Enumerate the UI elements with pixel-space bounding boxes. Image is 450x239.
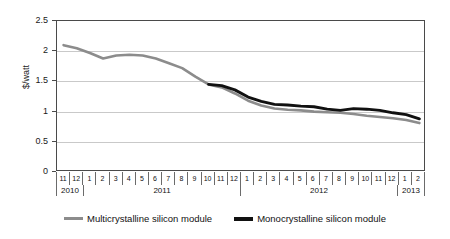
x-tick-month: 8: [175, 172, 188, 185]
legend-swatch: [234, 217, 253, 221]
x-tick-month: 4: [280, 172, 293, 185]
x-tick-month: 11: [215, 172, 228, 185]
x-tick-month: 2: [254, 172, 267, 185]
x-tick-year: 2011: [84, 185, 241, 196]
x-tick-month: 6: [149, 172, 162, 185]
x-tick-month: 3: [110, 172, 123, 185]
series-lines: [57, 21, 426, 172]
x-tick-month: 6: [307, 172, 320, 185]
y-tick-label: 1.5: [26, 76, 48, 84]
y-tick-label: 2: [26, 46, 48, 54]
x-tick-month: 7: [162, 172, 175, 185]
x-tick-month: 9: [346, 172, 359, 185]
x-tick-month: 7: [320, 172, 333, 185]
chart-page: $/watt 00.511.522.5 11121234567891011121…: [0, 0, 450, 239]
x-tick-month: 3: [267, 172, 280, 185]
y-tick-label: 2.5: [26, 16, 48, 24]
x-tick-month: 9: [188, 172, 201, 185]
legend-swatch: [64, 217, 83, 220]
y-tick-label: 0: [26, 167, 48, 175]
series-line-multicrystalline: [64, 45, 420, 123]
x-tick-month: 2: [96, 172, 109, 185]
plot-area: [56, 20, 425, 171]
x-tick-month: 11: [372, 172, 385, 185]
x-axis-months: 111212345678910111212345678910111212: [56, 172, 425, 185]
x-tick-month: 1: [83, 172, 96, 185]
legend-label: Monocrystalline silicon module: [257, 213, 386, 224]
x-tick-month: 1: [399, 172, 412, 185]
x-tick-month: 5: [136, 172, 149, 185]
y-tick-label: 0.5: [26, 137, 48, 145]
x-tick-month: 10: [202, 172, 215, 185]
series-line-monocrystalline: [209, 84, 420, 118]
x-tick-month: 12: [228, 172, 241, 185]
x-tick-month: 12: [70, 172, 83, 185]
y-tick-label: 1: [26, 107, 48, 115]
x-tick-month: 11: [56, 172, 70, 185]
x-tick-month: 5: [294, 172, 307, 185]
x-axis-years: 2010201120122013: [56, 185, 425, 199]
x-tick-month: 8: [333, 172, 346, 185]
x-tick-year: 2010: [56, 185, 84, 196]
x-tick-month: 2: [412, 172, 425, 185]
legend-item: Multicrystalline silicon module: [64, 213, 212, 224]
legend-label: Multicrystalline silicon module: [87, 213, 212, 224]
x-tick-month: 10: [359, 172, 372, 185]
legend-item: Monocrystalline silicon module: [234, 213, 386, 224]
chart-legend: Multicrystalline silicon moduleMonocryst…: [0, 213, 450, 224]
x-tick-month: 12: [386, 172, 399, 185]
x-tick-year: 2012: [241, 185, 398, 196]
x-tick-month: 4: [123, 172, 136, 185]
x-tick-year: 2013: [398, 185, 425, 196]
x-tick-month: 1: [241, 172, 254, 185]
